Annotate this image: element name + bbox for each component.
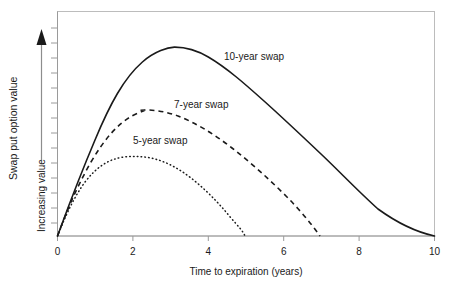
x-tick-label-4: 4 — [206, 246, 212, 257]
swap-put-option-value-chart: 0 2 4 6 8 10 Time to expiration (years) … — [0, 0, 451, 285]
series-line-5-year-swap — [58, 156, 246, 236]
x-tick-label-8: 8 — [356, 246, 362, 257]
x-axis-ticks — [58, 236, 435, 241]
x-tick-label-0: 0 — [55, 246, 61, 257]
series-line-7-year-swap — [58, 110, 321, 236]
series-label-5-year-swap: 5-year swap — [133, 135, 188, 146]
plot-frame — [58, 12, 435, 237]
increasing-value-arrow-icon — [37, 29, 47, 45]
x-tick-label-6: 6 — [281, 246, 287, 257]
x-axis-title: Time to expiration (years) — [190, 266, 303, 277]
x-tick-label-2: 2 — [130, 246, 136, 257]
x-tick-label-10: 10 — [429, 246, 441, 257]
y-axis-ticks — [51, 28, 58, 223]
series-label-7-year-swap: 7-year swap — [174, 99, 229, 110]
x-axis-tick-labels: 0 2 4 6 8 10 — [55, 246, 441, 257]
y-axis-title: Swap put option value — [7, 77, 19, 180]
figure-container: 0 2 4 6 8 10 Time to expiration (years) … — [0, 0, 451, 285]
series-label-10-year-swap: 10-year swap — [224, 51, 284, 62]
y-axis-increasing-value-label: Increasing value — [36, 159, 47, 232]
series-line-10-year-swap — [58, 47, 435, 236]
